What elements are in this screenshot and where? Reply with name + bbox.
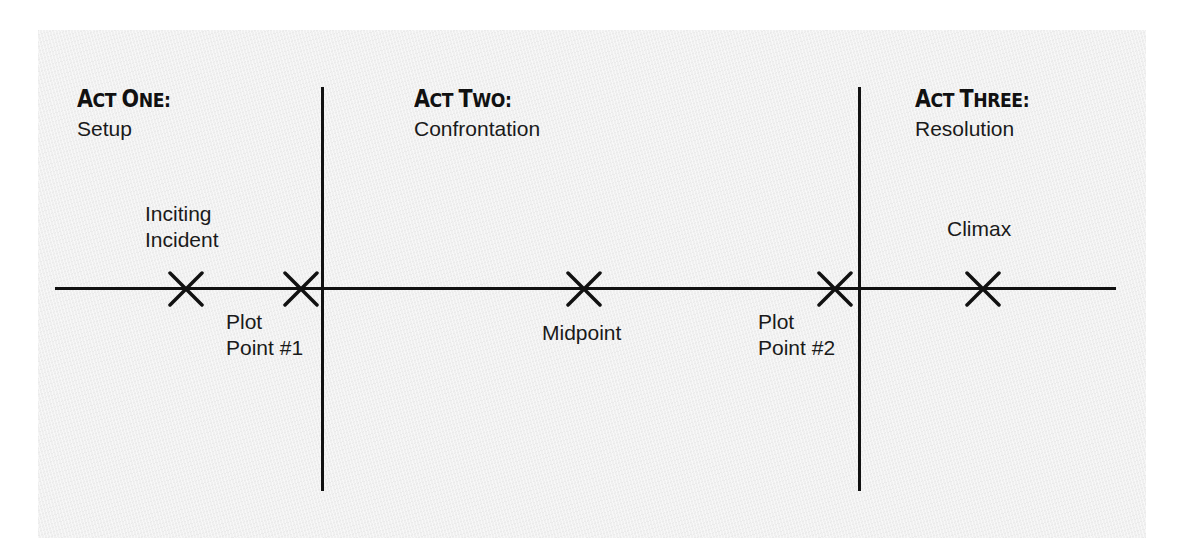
act-three-subtitle: Resolution xyxy=(915,117,1014,141)
x-mark-icon xyxy=(168,271,204,307)
event-label-plot-point-1: Plot Point #1 xyxy=(226,309,303,361)
x-mark-icon xyxy=(965,271,1001,307)
event-label-climax: Climax xyxy=(947,216,1011,242)
act-two-heading: ACT TWO: xyxy=(414,87,511,112)
act-one-heading: ACT ONE: xyxy=(77,87,170,112)
act-one-subtitle: Setup xyxy=(77,117,132,141)
act-two-subtitle: Confrontation xyxy=(414,117,540,141)
act-divider-1-2 xyxy=(321,87,324,491)
event-label-inciting-incident: Inciting Incident xyxy=(145,201,219,253)
event-label-plot-point-2: Plot Point #2 xyxy=(758,309,835,361)
x-mark-icon xyxy=(817,271,853,307)
event-label-midpoint: Midpoint xyxy=(542,320,621,346)
act-divider-2-3 xyxy=(858,87,861,491)
act-three-heading: ACT THREE: xyxy=(915,87,1029,112)
x-mark-icon xyxy=(283,271,319,307)
x-mark-icon xyxy=(566,271,602,307)
